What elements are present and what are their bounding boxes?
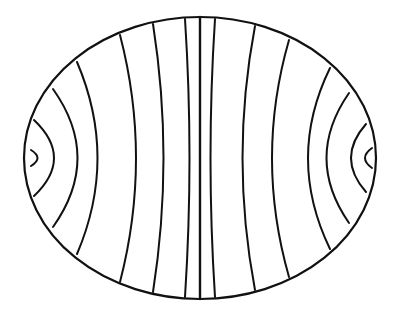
field-line-l-5 bbox=[153, 24, 164, 292]
diagram-canvas bbox=[0, 0, 399, 321]
field-line-l-3 bbox=[77, 62, 98, 254]
field-line-r-cap bbox=[365, 148, 372, 168]
field-line-diagram bbox=[0, 0, 399, 321]
field-line-l-6 bbox=[185, 19, 190, 297]
field-line-l-cap bbox=[31, 150, 38, 166]
field-line-l-4 bbox=[120, 35, 136, 282]
field-lines bbox=[31, 17, 372, 299]
field-line-r-1 bbox=[351, 124, 366, 192]
field-line-r-2 bbox=[327, 93, 350, 223]
field-line-r-6 bbox=[211, 19, 216, 297]
field-line-r-5 bbox=[243, 26, 256, 290]
field-line-l-2 bbox=[53, 89, 78, 227]
field-line-r-4 bbox=[272, 40, 289, 277]
